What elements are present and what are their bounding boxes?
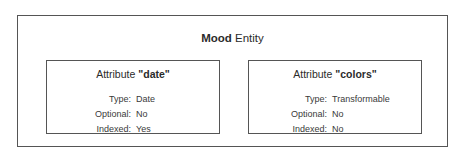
- attribute-properties: Type: Transformable Optional: No Indexed…: [249, 92, 421, 137]
- property-label: Indexed:: [47, 122, 131, 137]
- property-row-type: Type: Date: [47, 92, 219, 107]
- property-row-optional: Optional: No: [47, 107, 219, 122]
- property-row-type: Type: Transformable: [249, 92, 421, 107]
- property-label: Type:: [47, 92, 131, 107]
- property-value: No: [136, 107, 148, 122]
- attribute-prefix: Attribute: [96, 68, 138, 80]
- property-value: Yes: [136, 122, 151, 137]
- attribute-box-date: Attribute "date" Type: Date Optional: No…: [46, 60, 220, 134]
- property-value: No: [332, 122, 344, 137]
- attribute-name: "date": [138, 68, 170, 80]
- property-row-indexed: Indexed: Yes: [47, 122, 219, 137]
- property-value: Transformable: [332, 92, 390, 107]
- property-label: Indexed:: [249, 122, 327, 137]
- property-value: Date: [136, 92, 155, 107]
- property-row-indexed: Indexed: No: [249, 122, 421, 137]
- property-label: Optional:: [47, 107, 131, 122]
- attribute-box-colors: Attribute "colors" Type: Transformable O…: [248, 60, 422, 134]
- property-label: Type:: [249, 92, 327, 107]
- property-value: No: [332, 107, 344, 122]
- property-row-optional: Optional: No: [249, 107, 421, 122]
- attribute-properties: Type: Date Optional: No Indexed: Yes: [47, 92, 219, 137]
- attribute-title: Attribute "date": [47, 68, 219, 80]
- entity-box: Mood Entity Attribute "date" Type: Date …: [17, 15, 448, 147]
- entity-title: Mood Entity: [18, 32, 447, 44]
- attribute-name: "colors": [335, 68, 376, 80]
- attribute-prefix: Attribute: [293, 68, 335, 80]
- attribute-title: Attribute "colors": [249, 68, 421, 80]
- property-label: Optional:: [249, 107, 327, 122]
- entity-suffix: Entity: [232, 32, 264, 44]
- entity-name: Mood: [201, 32, 232, 44]
